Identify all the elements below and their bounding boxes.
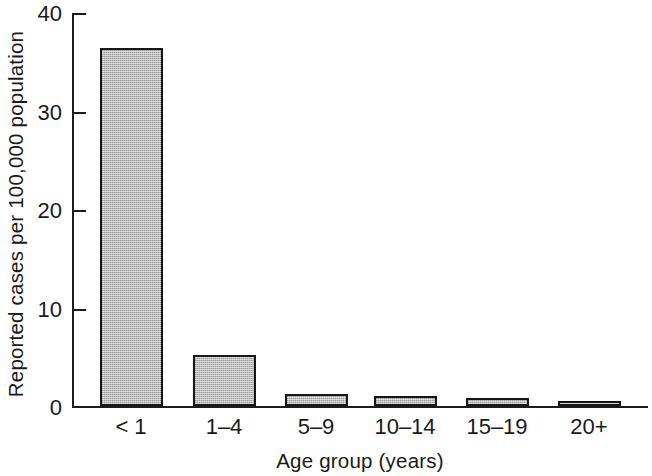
x-axis-spine xyxy=(72,406,648,408)
y-tick-label-10: 10 xyxy=(4,299,62,321)
y-tick-mark-10 xyxy=(74,309,86,311)
y-tick-label-40: 40 xyxy=(4,3,62,25)
y-tick-mark-20 xyxy=(74,210,86,212)
bar-age-20-plus xyxy=(558,401,621,406)
bar-age-1-4 xyxy=(193,355,256,406)
y-tick-mark-40 xyxy=(74,13,86,15)
y-tick-label-20: 20 xyxy=(4,200,62,222)
bar-age-lt-1 xyxy=(100,48,163,406)
plot-area xyxy=(72,13,648,408)
x-axis-label: Age group (years) xyxy=(72,449,648,473)
y-tick-label-30: 30 xyxy=(4,102,62,124)
y-tick-mark-30 xyxy=(74,112,86,114)
bar-chart-figure: Reported cases per 100,000 population 40… xyxy=(0,0,652,476)
y-tick-mark-0 xyxy=(74,406,86,408)
x-tick-label-20-plus: 20+ xyxy=(529,415,649,439)
bar-age-10-14 xyxy=(374,396,437,406)
y-tick-label-0: 0 xyxy=(4,397,62,419)
bar-age-5-9 xyxy=(285,394,348,406)
bar-age-15-19 xyxy=(466,398,529,406)
